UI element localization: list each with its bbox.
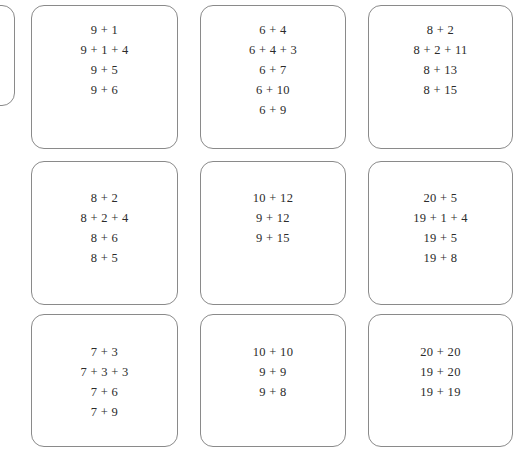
expression-line: 9 + 5: [32, 60, 177, 80]
expression-line: 19 + 1 + 4: [369, 208, 512, 228]
expression-line: 9 + 12: [201, 208, 345, 228]
expression-card-row2-col3[interactable]: 20 + 5 19 + 1 + 4 19 + 5 19 + 8: [368, 161, 513, 305]
expression-line: 8 + 2: [32, 188, 177, 208]
expression-line: 19 + 8: [369, 248, 512, 268]
expression-line: 7 + 3: [32, 342, 177, 362]
card-line-list: 9 + 1 9 + 1 + 4 9 + 5 9 + 6: [32, 20, 177, 100]
expression-line: 6 + 9: [201, 100, 345, 120]
card-line-list: 10 + 12 9 + 12 9 + 15: [201, 188, 345, 248]
expression-line: 8 + 5: [32, 248, 177, 268]
expression-line: 6 + 4 + 3: [201, 40, 345, 60]
card-partial-clipped[interactable]: [0, 5, 15, 106]
expression-line: 20 + 5: [369, 188, 512, 208]
expression-card-row3-col3[interactable]: 20 + 20 19 + 20 19 + 19: [368, 314, 513, 447]
card-line-list: 20 + 20 19 + 20 19 + 19: [369, 342, 512, 402]
expression-card-row1-col1[interactable]: 9 + 1 9 + 1 + 4 9 + 5 9 + 6: [31, 5, 178, 149]
expression-line: 10 + 10: [201, 342, 345, 362]
expression-line: 8 + 2: [369, 20, 512, 40]
expression-line: 20 + 20: [369, 342, 512, 362]
expression-line: 6 + 10: [201, 80, 345, 100]
expression-card-row2-col1[interactable]: 8 + 2 8 + 2 + 4 8 + 6 8 + 5: [31, 161, 178, 305]
expression-line: 10 + 12: [201, 188, 345, 208]
card-line-list: 6 + 4 6 + 4 + 3 6 + 7 6 + 10 6 + 9: [201, 20, 345, 120]
expression-card-row2-col2[interactable]: 10 + 12 9 + 12 9 + 15: [200, 161, 346, 305]
card-line-list: 10 + 10 9 + 9 9 + 8: [201, 342, 345, 402]
expression-card-row1-col2[interactable]: 6 + 4 6 + 4 + 3 6 + 7 6 + 10 6 + 9: [200, 5, 346, 149]
expression-line: 9 + 9: [201, 362, 345, 382]
expression-card-row3-col2[interactable]: 10 + 10 9 + 9 9 + 8: [200, 314, 346, 447]
expression-line: 8 + 13: [369, 60, 512, 80]
expression-line: 9 + 1 + 4: [32, 40, 177, 60]
expression-line: 6 + 4: [201, 20, 345, 40]
expression-card-row3-col1[interactable]: 7 + 3 7 + 3 + 3 7 + 6 7 + 9: [31, 314, 178, 447]
expression-line: 9 + 6: [32, 80, 177, 100]
expression-line: 9 + 1: [32, 20, 177, 40]
expression-line: 8 + 15: [369, 80, 512, 100]
card-line-list: 7 + 3 7 + 3 + 3 7 + 6 7 + 9: [32, 342, 177, 422]
expression-line: 8 + 6: [32, 228, 177, 248]
expression-line: 19 + 5: [369, 228, 512, 248]
expression-line: 9 + 15: [201, 228, 345, 248]
expression-line: 9 + 8: [201, 382, 345, 402]
card-board: 9 + 1 9 + 1 + 4 9 + 5 9 + 6 6 + 4 6 + 4 …: [0, 0, 518, 452]
expression-line: 19 + 19: [369, 382, 512, 402]
expression-card-row1-col3[interactable]: 8 + 2 8 + 2 + 11 8 + 13 8 + 15: [368, 5, 513, 149]
expression-line: 8 + 2 + 4: [32, 208, 177, 228]
expression-line: 8 + 2 + 11: [369, 40, 512, 60]
card-line-list: 8 + 2 8 + 2 + 11 8 + 13 8 + 15: [369, 20, 512, 100]
expression-line: 7 + 6: [32, 382, 177, 402]
expression-line: 7 + 9: [32, 402, 177, 422]
expression-line: 7 + 3 + 3: [32, 362, 177, 382]
card-line-list: 8 + 2 8 + 2 + 4 8 + 6 8 + 5: [32, 188, 177, 268]
expression-line: 19 + 20: [369, 362, 512, 382]
expression-line: 6 + 7: [201, 60, 345, 80]
card-line-list: 20 + 5 19 + 1 + 4 19 + 5 19 + 8: [369, 188, 512, 268]
